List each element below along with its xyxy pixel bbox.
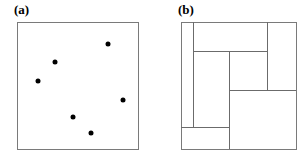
panel-a-scatter-plot <box>0 0 154 163</box>
scatter-point <box>71 115 76 120</box>
figure-container: (a) (b) <box>0 0 308 163</box>
scatter-point <box>106 42 111 47</box>
scatter-point <box>121 98 126 103</box>
panel-b-frame <box>182 23 297 150</box>
panel-a: (a) <box>0 0 154 163</box>
panel-b: (b) <box>154 0 308 163</box>
scatter-point <box>53 60 58 65</box>
panel-b-partition-plot <box>154 0 308 163</box>
panel-a-frame <box>18 23 139 150</box>
scatter-point <box>89 131 94 136</box>
scatter-point <box>36 79 41 84</box>
